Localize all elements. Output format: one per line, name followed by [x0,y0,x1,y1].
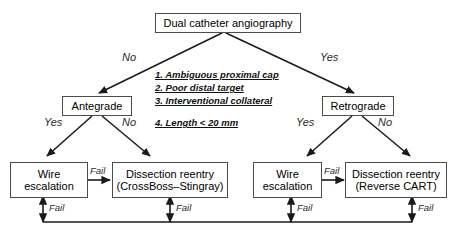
criteria-item-2: 2. Poor distal target [155,83,244,93]
node-label-line1: Dissection reentry [126,168,214,180]
node-antegrade-dissection-reentry[interactable]: Dissection reentry (CrossBoss–Stingray) [112,162,228,198]
node-label-line1: Wire [276,168,299,180]
fail-label-feedback-2: Fail [175,203,192,213]
node-label: Retrograde [330,100,385,112]
edge-label-retrograde-yes: Yes [296,117,314,128]
node-retrograde-dissection-reentry[interactable]: Dissection reentry (Reverse CART) [345,162,447,198]
node-label: Antegrade [72,100,123,112]
criteria-item-4: 4. Length < 20 mm [155,118,238,128]
node-label-line1: Wire [38,168,61,180]
node-retrograde[interactable]: Retrograde [322,96,394,116]
fail-label-antegrade-cross: Fail [89,166,106,176]
edge-label-antegrade-yes: Yes [44,117,62,128]
node-antegrade-wire-escalation[interactable]: Wire escalation [10,162,88,198]
node-label-line2: (CrossBoss–Stingray) [117,180,224,192]
node-retrograde-wire-escalation[interactable]: Wire escalation [253,162,322,198]
fail-label-feedback-3: Fail [296,203,313,213]
node-label-line1: Dissection reentry [352,168,440,180]
criteria-item-3: 3. Interventional collateral [155,96,272,106]
node-label-line2: (Reverse CART) [355,180,436,192]
edge-label-antegrade-no: No [122,117,136,128]
edge-label-root-yes: Yes [320,52,338,63]
edge-label-root-no: No [122,52,136,63]
node-dual-catheter-angiography[interactable]: Dual catheter angiography [155,13,301,33]
edge-root-to-retrograde [226,33,354,93]
node-label: Dual catheter angiography [163,17,292,29]
criteria-item-1: 1. Ambiguous proximal cap [155,70,279,80]
edge-label-retrograde-no: No [378,117,392,128]
node-label-line2: escalation [263,180,313,192]
flowchart-canvas: Dual catheter angiography No Yes 1. Ambi… [0,0,462,238]
fail-label-feedback-4: Fail [417,203,434,213]
node-antegrade[interactable]: Antegrade [62,96,132,116]
fail-label-retrograde-cross: Fail [323,166,340,176]
node-label-line2: escalation [24,180,74,192]
fail-label-feedback-1: Fail [48,203,65,213]
